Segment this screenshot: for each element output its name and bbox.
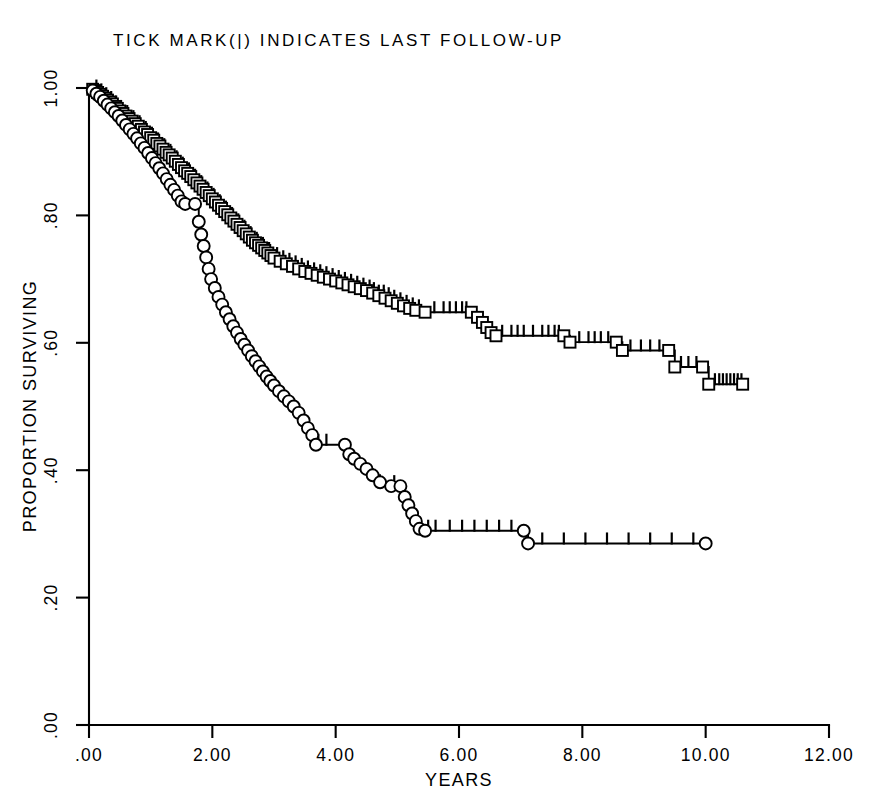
upper-curve-square-markers [87, 84, 748, 390]
x-axis-title: YEARS [425, 770, 493, 790]
data-point-square [737, 379, 748, 390]
y-axis-title: PROPORTION SURVIVING [20, 280, 40, 532]
y-tick-label: .80 [41, 201, 61, 229]
data-point-circle [193, 216, 205, 228]
data-point-circle [189, 198, 201, 210]
data-point-circle [518, 525, 530, 537]
y-tick-label: .40 [41, 456, 61, 484]
x-tick-label: .00 [75, 745, 103, 765]
y-tick-label: .60 [41, 329, 61, 357]
x-axis-ticks [89, 725, 829, 738]
upper-curve-path [89, 88, 743, 384]
y-tick-label: .20 [41, 584, 61, 612]
x-tick-label: 2.00 [193, 745, 232, 765]
y-tick-label: .00 [41, 711, 61, 739]
data-point-circle [310, 439, 322, 451]
data-point-square [420, 307, 431, 318]
x-tick-label: 12.00 [804, 745, 854, 765]
chart-title: TICK MARK(|) INDICATES LAST FOLLOW-UP [113, 31, 564, 50]
y-tick-label: 1.00 [41, 69, 61, 108]
x-tick-label: 8.00 [563, 745, 602, 765]
data-point-square [703, 379, 714, 390]
x-tick-label: 6.00 [440, 745, 479, 765]
data-point-square [663, 345, 674, 356]
data-point-circle [200, 251, 212, 263]
y-axis-tick-labels: .00.20.40.60.801.00 [41, 69, 61, 739]
lower-curve-censor-ticks [318, 434, 693, 545]
data-point-square [669, 362, 680, 373]
x-tick-label: 10.00 [681, 745, 731, 765]
data-point-circle [419, 525, 431, 537]
data-point-circle [198, 240, 210, 252]
data-point-square [565, 337, 576, 348]
upper-survival-curve [89, 88, 743, 384]
survival-chart-figure: TICK MARK(|) INDICATES LAST FOLLOW-UP PR… [0, 0, 881, 799]
x-axis-tick-labels: .002.004.006.008.0010.0012.00 [75, 745, 854, 765]
x-tick-label: 4.00 [316, 745, 355, 765]
data-point-square [697, 362, 708, 373]
upper-curve-censor-ticks [96, 80, 741, 386]
data-point-circle [522, 537, 534, 549]
data-point-circle [700, 537, 712, 549]
lower-curve-circle-markers [87, 85, 712, 550]
data-point-circle [195, 229, 207, 241]
data-point-square [617, 345, 628, 356]
survival-plot-canvas: TICK MARK(|) INDICATES LAST FOLLOW-UP PR… [0, 0, 881, 799]
data-point-square [491, 330, 502, 341]
y-axis-ticks [76, 88, 89, 725]
